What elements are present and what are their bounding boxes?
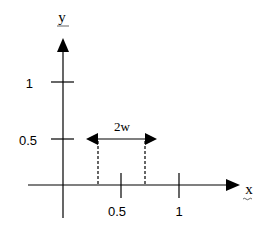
y-axis-label: y [58, 9, 66, 25]
interval-double-arrow [86, 133, 157, 145]
x-label-underline [243, 198, 252, 200]
right-arrowhead-icon [145, 133, 157, 145]
x-axis [28, 179, 240, 191]
x-axis-label: x [245, 181, 253, 197]
y-axis [57, 38, 69, 218]
interval-label: 2w [114, 119, 131, 134]
left-arrowhead-icon [86, 133, 98, 145]
y-tick-label-1: 1 [26, 76, 33, 91]
y-tick-label-0-5: 0.5 [19, 133, 37, 148]
y-axis-arrowhead-icon [57, 38, 69, 52]
diagram-canvas: y x 1 0.5 0.5 1 2w [0, 0, 270, 227]
x-axis-arrowhead-icon [226, 179, 240, 191]
x-tick-label-1: 1 [175, 204, 182, 219]
x-tick-label-0-5: 0.5 [108, 204, 126, 219]
